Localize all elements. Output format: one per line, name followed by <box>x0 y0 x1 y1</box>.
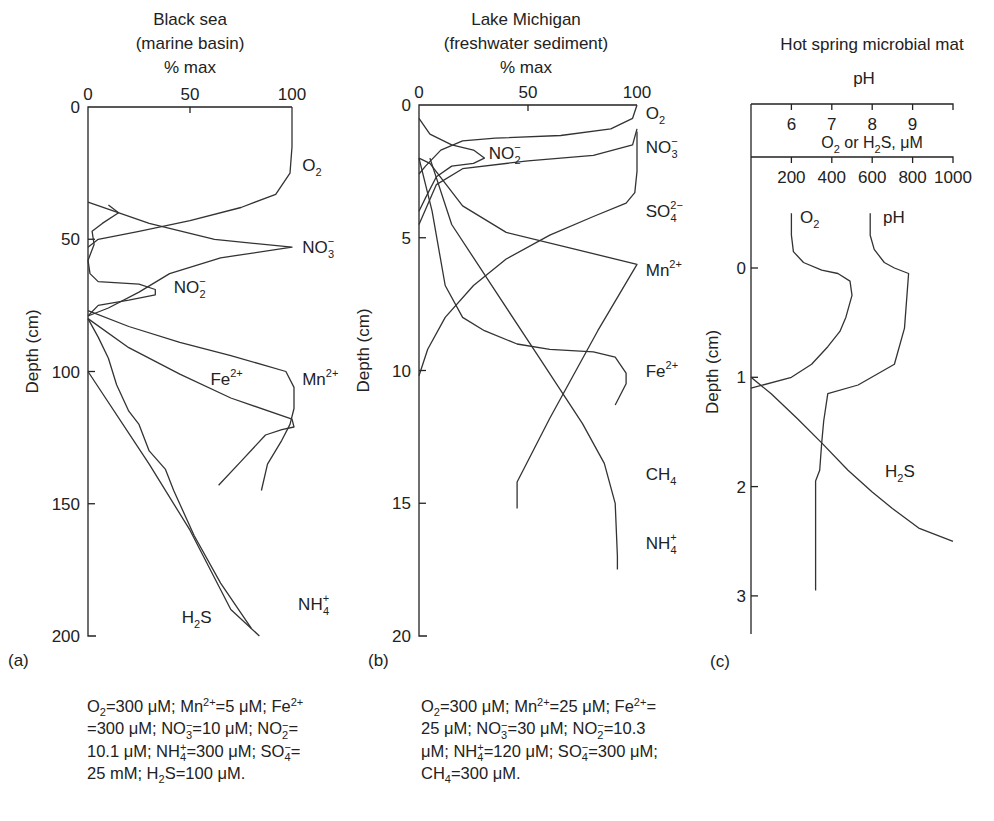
series-h2s <box>751 377 953 541</box>
series-no3 <box>419 129 637 225</box>
panel-b: Lake Michigan(freshwater sediment)% max0… <box>354 10 651 670</box>
y-tick-label: 0 <box>402 96 411 115</box>
series-label-h2s: H2S <box>885 462 915 484</box>
series-label-o2: O2 <box>646 104 665 126</box>
series-fe2 <box>88 319 294 486</box>
series-label-mn2: Mn2+ <box>302 367 338 389</box>
axes-frame <box>88 107 292 636</box>
conc-tick-label: 800 <box>898 168 926 187</box>
caption-line: μM; NH+4=120 μM; SO−4=300 μM; <box>421 740 658 763</box>
x-tick-label: 100 <box>278 85 306 104</box>
series-label-fe2: Fe2+ <box>210 367 242 389</box>
conc-tick-label: 1000 <box>934 168 972 187</box>
conc-axis-title: O2 or H2S, μM <box>821 134 922 155</box>
series-label-h2s: H2S <box>182 608 212 630</box>
series-label-no3: NO−3 <box>646 135 678 160</box>
series-label-o2: O2 <box>302 156 321 178</box>
series-mn2 <box>88 311 294 491</box>
x-tick-label: 0 <box>83 85 92 104</box>
panel-a: Black sea(marine basin)% max050100050100… <box>8 10 306 670</box>
panel-label: (c) <box>710 652 730 671</box>
series-label-no3: NO−3 <box>302 235 334 260</box>
ph-axis-title: pH <box>853 69 875 88</box>
y-tick-label: 100 <box>52 363 80 382</box>
series-label-no2: NO−2 <box>174 275 206 300</box>
caption-line: O2=300 μM; Mn2+=25 μM; Fe2+= <box>421 695 658 717</box>
y-tick-label: 50 <box>61 230 80 249</box>
y-tick-label: 200 <box>52 627 80 646</box>
caption-line: 10.1 μM; NH+4=300 μM; SO−4= <box>87 740 303 763</box>
series-label-so42: SO2−4 <box>646 199 683 224</box>
series-so42 <box>419 132 637 376</box>
panel-title-line: (freshwater sediment) <box>444 34 608 53</box>
series-mn2 <box>419 158 637 509</box>
panel-title-line: Black sea <box>153 10 227 29</box>
x-tick-label: 100 <box>623 83 651 102</box>
ph-tick-label: 7 <box>827 115 836 134</box>
conc-tick-label: 600 <box>858 168 886 187</box>
series-fe2 <box>419 158 626 405</box>
panel-label: (a) <box>8 651 29 670</box>
x-tick-label: 50 <box>181 85 200 104</box>
panel-c: Hot spring microbial matpH6789O2 or H2S,… <box>703 35 972 671</box>
caption-line: 25 mM; H2S=100 μM. <box>87 762 303 784</box>
conc-tick-label: 400 <box>818 168 846 187</box>
x-tick-label: 50 <box>519 83 538 102</box>
ph-tick-label: 9 <box>908 115 917 134</box>
series-nh4 <box>88 319 251 628</box>
series-label-mn2: Mn2+ <box>646 258 682 280</box>
caption-line: 25 μM; NO−3=30 μM; NO−2=10.3 <box>421 717 658 740</box>
caption-a: O2=300 μM; Mn2+=5 μM; Fe2+=300 μM; NO−3=… <box>87 695 303 784</box>
series-o2 <box>88 107 292 247</box>
y-axis-title: Depth (cm) <box>354 308 373 392</box>
series-o2 <box>751 213 852 388</box>
y-axis-title: Depth (cm) <box>23 309 42 393</box>
ph-tick-label: 8 <box>867 115 876 134</box>
y-tick-label: 1 <box>737 368 746 387</box>
y-axis-title: Depth (cm) <box>703 330 722 414</box>
x-axis-title: % max <box>500 58 552 77</box>
series-label-no2: NO−2 <box>489 141 521 166</box>
y-tick-label: 0 <box>737 259 746 278</box>
y-tick-label: 0 <box>71 98 80 117</box>
caption-line: =300 μM; NO−3=10 μM; NO−2= <box>87 717 303 740</box>
series-label-o2: O2 <box>800 208 819 230</box>
series-ph <box>816 213 909 590</box>
series-label-fe2: Fe2+ <box>646 359 678 381</box>
y-tick-label: 5 <box>402 229 411 248</box>
x-tick-label: 0 <box>414 83 423 102</box>
ph-axis <box>751 104 953 110</box>
y-tick-label: 2 <box>737 478 746 497</box>
panel-title-line: Lake Michigan <box>471 10 581 29</box>
y-tick-label: 15 <box>392 494 411 513</box>
x-axis-title: % max <box>164 58 216 77</box>
axes-frame <box>419 105 637 636</box>
panel-title-line: (marine basin) <box>136 34 245 53</box>
conc-tick-label: 200 <box>777 168 805 187</box>
conc-axis <box>751 157 953 163</box>
panel-title-line: Hot spring microbial mat <box>780 35 964 54</box>
y-tick-label: 20 <box>392 627 411 646</box>
series-h2s <box>88 372 259 637</box>
series-label-nh4: NH+4 <box>298 592 329 617</box>
y-tick-label: 10 <box>392 362 411 381</box>
series-o2 <box>419 105 637 174</box>
caption-line: CH4=300 μM. <box>421 762 658 784</box>
y-tick-label: 150 <box>52 495 80 514</box>
y-tick-label: 3 <box>737 587 746 606</box>
series-label-ch4: CH4 <box>646 465 677 487</box>
panel-label: (b) <box>368 651 389 670</box>
caption-b: O2=300 μM; Mn2+=25 μM; Fe2+=25 μM; NO−3=… <box>421 695 658 784</box>
series-label-nh4: NH+4 <box>646 531 677 556</box>
ph-tick-label: 6 <box>787 115 796 134</box>
series-label-ph: pH <box>883 208 905 227</box>
caption-line: O2=300 μM; Mn2+=5 μM; Fe2+ <box>87 695 303 717</box>
series-no3 <box>88 202 292 316</box>
series-ch4 <box>430 158 618 569</box>
